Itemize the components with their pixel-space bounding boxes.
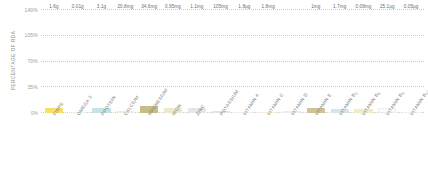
x-axis-label-slot: VITAMIN D (280, 113, 304, 169)
bar-value-label: 0.95mg (165, 4, 181, 9)
y-axis-title: PERCENTAGE OF RDA (6, 14, 20, 106)
x-axis-label-slot: VITAMIN B9 (375, 113, 399, 169)
bar-value-label: 1.8µg (238, 4, 250, 9)
nutrition-rda-bar-chart: PERCENTAGE OF RDA 140%105%70%35%0% 1.6g0… (0, 0, 428, 169)
bar-value-label: 1.7mg (333, 4, 346, 9)
x-axis-label-slot: VITAMIN E (304, 113, 328, 169)
x-axis-label-slot: CALCIUM (113, 113, 137, 169)
bar-value-label: 0.05µg (404, 4, 419, 9)
bar-value-label: 1.6g (49, 4, 58, 9)
bar-value-label: 0.08mg (356, 4, 372, 9)
y-axis-tick-label: 105% (24, 32, 38, 38)
x-axis-label-slot: VITAMIN C (256, 113, 280, 169)
y-axis-tick-label: 70% (27, 58, 38, 64)
bar-value-label: 25.1µg (380, 4, 395, 9)
bar-value-label: 105mg (213, 4, 228, 9)
x-axis-labels-group: FIBREOMEGA 3PROTEINCALCIUMMAGNESIUMIRONZ… (41, 113, 424, 169)
y-axis-tick-label: 0% (31, 110, 38, 115)
bar-slot: 0.95mg (161, 10, 185, 113)
bar-value-label: 1mg (311, 4, 320, 9)
y-axis-tick-label: 140% (24, 7, 38, 13)
bar-value-label: 0.01g (72, 4, 84, 9)
bar-value-label: 1.1mg (190, 4, 203, 9)
x-axis-label-slot: OMEGA 3 (66, 113, 90, 169)
bar-value-label: 1.8mg (262, 4, 275, 9)
x-axis-label-slot: IRON (161, 113, 185, 169)
x-axis-label-slot: PROTEIN (90, 113, 114, 169)
bar-slot: 1.1mg (185, 10, 209, 113)
bar-value-label: 34.6mg (141, 4, 157, 9)
x-axis-label-slot: VITAMIN A (233, 113, 257, 169)
bar-value-label: 3.1g (97, 4, 106, 9)
x-axis-label-slot: MAGNESIUM (137, 113, 161, 169)
bar-value-label: 20.8mg (117, 4, 133, 9)
x-axis-label-slot: ZINC (185, 113, 209, 169)
bar-slot: 1.6g (42, 10, 66, 113)
x-axis-label-slot: VITAMIN B6 (352, 113, 376, 169)
y-axis-tick-label: 35% (27, 84, 38, 90)
x-axis-label-slot: POTASSIUM (209, 113, 233, 169)
x-axis-label-slot: VITAMIN B3 (328, 113, 352, 169)
x-axis-label-slot: VITAMIN B12 (399, 113, 423, 169)
x-axis-label-subscript: 3 (353, 91, 358, 95)
x-axis-label-slot: FIBRE (42, 113, 66, 169)
